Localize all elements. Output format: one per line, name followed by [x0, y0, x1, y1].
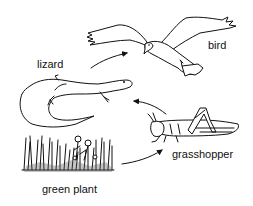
label-grasshopper: grasshopper	[172, 149, 233, 160]
green-plant-illustration	[22, 136, 114, 172]
label-bird: bird	[208, 40, 226, 51]
grasshopper-illustration	[148, 108, 239, 142]
arrow-plant-to-grasshopper	[122, 150, 162, 164]
label-lizard: lizard	[37, 59, 63, 70]
food-chain-diagram	[0, 0, 253, 206]
label-green-plant: green plant	[42, 184, 97, 195]
lizard-illustration	[20, 75, 132, 127]
arrow-grasshopper-to-lizard	[134, 101, 166, 114]
arrow-lizard-to-bird	[91, 53, 127, 68]
